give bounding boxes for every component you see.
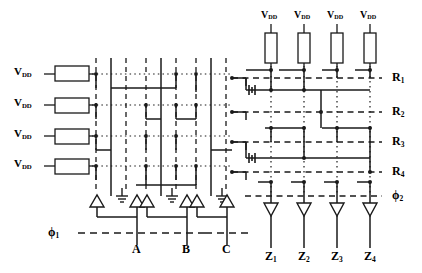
right-output-columns bbox=[271, 66, 370, 196]
input-buffer-wires bbox=[97, 207, 227, 245]
input-label-b: B bbox=[182, 243, 190, 255]
output-label-z3: Z3 bbox=[331, 250, 343, 263]
right-row-lines bbox=[232, 78, 382, 196]
left-supply-resistors bbox=[44, 66, 96, 174]
row-label-r1: R1 bbox=[392, 71, 404, 84]
vdd-label-top-4: VDD bbox=[360, 10, 376, 21]
circuit-diagram: VDD VDD VDD VDD VDD VDD VDD VDD R1 R2 R3… bbox=[0, 0, 422, 273]
vdd-label-top-1: VDD bbox=[261, 10, 277, 21]
output-label-z2: Z2 bbox=[298, 250, 310, 263]
input-label-c: C bbox=[222, 243, 231, 255]
top-supply-leads bbox=[271, 24, 370, 70]
right-ground-symbols bbox=[249, 85, 255, 163]
output-label-z4: Z4 bbox=[364, 250, 376, 263]
row-label-r4: R4 bbox=[392, 165, 404, 178]
vdd-label-left-3: VDD bbox=[14, 128, 32, 140]
vdd-label-top-2: VDD bbox=[294, 10, 310, 21]
row-label-r3: R3 bbox=[392, 135, 404, 148]
row-label-r2: R2 bbox=[392, 105, 404, 118]
input-buffer-triangles bbox=[90, 195, 234, 207]
vdd-label-left-2: VDD bbox=[14, 97, 32, 109]
right-node-dots bbox=[230, 68, 372, 184]
top-supply-resistors bbox=[265, 33, 376, 63]
phi1-label: ϕ1 bbox=[48, 226, 59, 239]
vdd-label-left-1: VDD bbox=[14, 66, 32, 78]
output-buffer-wires bbox=[271, 196, 370, 248]
schematic-canvas bbox=[0, 0, 422, 273]
phi2-label: ϕ2 bbox=[392, 189, 403, 202]
vdd-label-left-4: VDD bbox=[14, 158, 32, 170]
output-label-z1: Z1 bbox=[265, 250, 277, 263]
vdd-label-top-3: VDD bbox=[327, 10, 343, 21]
output-buffer-triangles bbox=[264, 203, 377, 216]
input-label-a: A bbox=[132, 243, 141, 255]
